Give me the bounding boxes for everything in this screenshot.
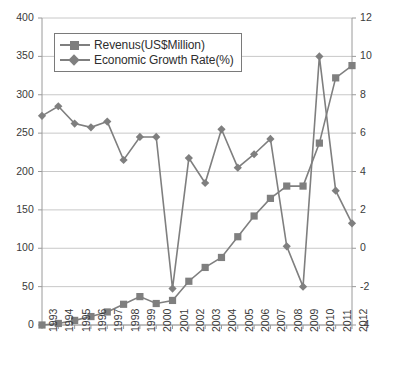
y-axis-right-tick-label: 8 bbox=[360, 88, 390, 100]
x-axis-tick-label: 2000 bbox=[161, 309, 173, 332]
x-axis-tick-label: 2007 bbox=[275, 309, 287, 332]
data-point-marker bbox=[348, 62, 355, 69]
legend-label-economic-growth-rate: Economic Growth Rate(%) bbox=[94, 53, 234, 67]
data-point-marker bbox=[201, 179, 209, 187]
x-axis-tick-label: 2004 bbox=[226, 309, 238, 332]
data-point-marker bbox=[234, 233, 241, 240]
data-series-layer bbox=[38, 52, 356, 328]
data-point-marker bbox=[332, 74, 339, 81]
x-axis-tick-label: 2002 bbox=[194, 309, 206, 332]
data-point-marker bbox=[120, 301, 127, 308]
chart-container: 050100150200250300350400 -4-2024681012 1… bbox=[0, 0, 404, 372]
x-axis-tick-label: 2011 bbox=[341, 309, 353, 332]
data-point-marker bbox=[348, 219, 356, 227]
data-point-marker bbox=[315, 52, 323, 60]
x-axis-tick-label: 1996 bbox=[96, 309, 108, 332]
x-axis-tick-label: 1998 bbox=[129, 309, 141, 332]
y-axis-left-tick-label: 250 bbox=[2, 126, 34, 138]
data-point-marker bbox=[185, 154, 193, 162]
x-axis-tick-label: 2008 bbox=[292, 309, 304, 332]
data-point-marker bbox=[103, 118, 111, 126]
x-axis-tick-label: 2012 bbox=[357, 309, 369, 332]
data-point-marker bbox=[38, 112, 46, 120]
x-axis-tick-label: 1997 bbox=[112, 309, 124, 332]
data-point-marker bbox=[38, 321, 45, 328]
x-axis-tick-label: 2003 bbox=[210, 309, 222, 332]
x-axis-tick-label: 2005 bbox=[243, 309, 255, 332]
legend-label-revenus: Revenus(US$Million) bbox=[94, 38, 205, 52]
data-point-marker bbox=[316, 140, 323, 147]
y-axis-left-tick-label: 150 bbox=[2, 203, 34, 215]
legend-item-economic-growth-rate: Economic Growth Rate(%) bbox=[60, 52, 234, 67]
y-axis-left-tick-marks bbox=[38, 18, 42, 325]
data-point-marker bbox=[283, 242, 291, 250]
square-marker-icon bbox=[60, 39, 90, 51]
data-point-marker bbox=[267, 195, 274, 202]
data-point-marker bbox=[87, 123, 95, 131]
x-axis-tick-label: 1999 bbox=[145, 309, 157, 332]
data-point-marker bbox=[299, 182, 306, 189]
data-point-marker bbox=[153, 300, 160, 307]
y-axis-right-tick-label: 4 bbox=[360, 165, 390, 177]
data-point-marker bbox=[218, 254, 225, 261]
data-point-marker bbox=[332, 187, 340, 195]
x-axis-tick-label: 2006 bbox=[259, 309, 271, 332]
y-axis-left-tick-label: 200 bbox=[2, 165, 34, 177]
x-axis-tick-label: 1995 bbox=[80, 309, 92, 332]
y-axis-right-tick-label: 6 bbox=[360, 126, 390, 138]
x-axis-tick-label: 1994 bbox=[63, 309, 75, 332]
y-axis-right-tick-label: 10 bbox=[360, 49, 390, 61]
data-point-marker bbox=[217, 125, 225, 133]
data-point-marker bbox=[152, 133, 160, 141]
diamond-marker-icon bbox=[60, 54, 90, 66]
data-point-marker bbox=[251, 212, 258, 219]
y-axis-left-tick-label: 100 bbox=[2, 241, 34, 253]
y-axis-right-tick-label: 12 bbox=[360, 11, 390, 23]
y-axis-right-tick-label: 0 bbox=[360, 241, 390, 253]
chart-legend: Revenus(US$Million) Economic Growth Rate… bbox=[54, 33, 242, 72]
y-axis-left-tick-label: 0 bbox=[2, 318, 34, 330]
y-axis-left-tick-label: 50 bbox=[2, 280, 34, 292]
data-point-marker bbox=[283, 182, 290, 189]
x-axis-tick-label: 2010 bbox=[324, 309, 336, 332]
x-axis-tick-label: 2009 bbox=[308, 309, 320, 332]
y-axis-left-tick-label: 300 bbox=[2, 88, 34, 100]
data-point-marker bbox=[136, 293, 143, 300]
legend-item-revenus: Revenus(US$Million) bbox=[60, 37, 234, 52]
data-point-marker bbox=[185, 278, 192, 285]
x-axis-tick-label: 2001 bbox=[178, 309, 190, 332]
series-line-1 bbox=[42, 56, 352, 288]
y-axis-left-tick-label: 350 bbox=[2, 49, 34, 61]
data-point-marker bbox=[202, 264, 209, 271]
data-point-marker bbox=[299, 283, 307, 291]
y-axis-right-tick-label: -2 bbox=[360, 280, 390, 292]
x-axis-tick-label: 1993 bbox=[47, 309, 59, 332]
data-point-marker bbox=[168, 284, 176, 292]
y-axis-left-tick-label: 400 bbox=[2, 11, 34, 23]
data-point-marker bbox=[169, 297, 176, 304]
y-axis-right-tick-label: 2 bbox=[360, 203, 390, 215]
